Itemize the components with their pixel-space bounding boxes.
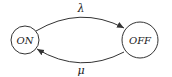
arrow-off-to-on <box>37 49 124 63</box>
transition-off-to-on: μ <box>37 49 124 77</box>
lambda-label: λ <box>77 2 85 15</box>
arrow-on-to-off <box>36 17 124 31</box>
mu-label: μ <box>77 64 84 77</box>
state-on-label: ON <box>17 35 35 46</box>
state-diagram: λ μ ON OFF <box>0 0 172 77</box>
state-on: ON <box>11 26 39 54</box>
state-off-label: OFF <box>129 35 152 46</box>
state-off: OFF <box>122 22 158 58</box>
transition-on-to-off: λ <box>36 2 124 31</box>
